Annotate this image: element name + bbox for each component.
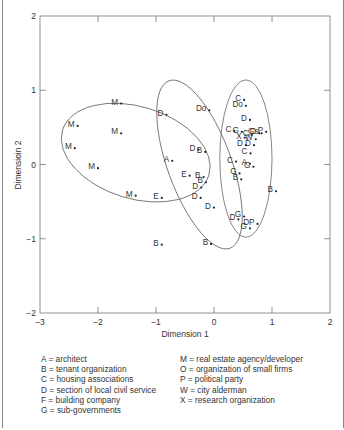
point-label: E [153,192,159,201]
data-point: E [153,192,163,201]
legend-item: W = city alderman [180,385,303,395]
data-point: P [258,126,268,135]
point-marker [135,195,137,197]
legend-item: M = real estate agency/developer [180,354,303,364]
point-label: M [111,127,118,136]
data-point: C [227,156,237,165]
data-point: B [197,176,207,185]
y-tick-label: 1 [31,85,36,95]
point-marker [205,181,207,183]
data-point: Do [196,104,211,113]
point-label: M [111,98,118,107]
point-marker [97,167,99,169]
point-label: B [197,176,203,185]
point-marker [161,197,163,199]
y-axis-label: Dimensioin 2 [13,140,23,189]
point-marker [171,160,173,162]
point-label: D [205,202,211,211]
point-label: M [88,162,95,171]
point-label: B [233,173,239,182]
x-axis-label: Dimension 1 [161,329,209,339]
data-point: D [158,109,168,118]
point-marker [252,166,254,168]
legend-left-column: A = architect B = tenant organization C … [41,354,156,415]
data-point: G [244,161,254,170]
legend-item: O = organization of small firms [180,364,303,374]
legend-item: C = housing associations [41,374,156,384]
point-marker [235,160,237,162]
point-marker [200,197,202,199]
point-marker [204,151,206,153]
point-marker [213,206,215,208]
point-label: G [235,210,241,219]
point-label: E [181,170,187,179]
point-marker [238,172,240,174]
point-marker [265,131,267,133]
point-marker [120,103,122,105]
point-marker [120,132,122,134]
point-marker [253,144,255,146]
point-marker [74,147,76,149]
y-tick-label: 2 [31,11,36,21]
point-label: B [268,185,274,194]
point-label: B [153,239,159,248]
point-label: D [158,109,164,118]
y-tick-label: −2 [26,308,36,318]
point-marker [200,186,202,188]
point-marker [240,178,242,180]
point-label: M [65,142,72,151]
point-label: B [197,146,203,155]
point-label: D [192,182,198,191]
data-point: M [65,142,76,151]
legend-item: X = research organization [180,395,303,405]
point-marker [249,152,251,154]
point-label: M [126,190,133,199]
point-label: D [192,192,198,201]
y-tick-label: 0 [31,160,36,170]
data-point: M [68,120,79,129]
point-marker [249,119,251,121]
point-label: Do [232,100,243,109]
plot-area-border [40,16,330,313]
data-points: MDMMMMMEBDoADBEBBDDDBCDoDCGCOGsPXWDDCCAG… [65,94,277,248]
data-point: D [241,114,251,123]
point-label: G [244,161,250,170]
x-tick-label: −3 [35,317,45,327]
y-tick-label: −1 [26,234,36,244]
legend-right-column: M = real estate agency/developer O = org… [180,354,303,405]
x-tick-label: 1 [270,317,275,327]
point-marker [256,223,258,225]
point-marker [208,109,210,111]
data-point: A [164,155,174,164]
point-label: C [227,156,233,165]
data-point: DP [243,218,258,227]
x-tick-label: 0 [212,317,217,327]
legend-item: B = tenant organization [41,364,156,374]
data-point: C [242,147,252,156]
point-label: C [242,147,248,156]
data-point: E [181,170,191,179]
scatter-plot: −3−2−1012−2−1012 MDMMMMMEBDoADBEBBDDDBCD… [0,0,343,350]
x-tick-label: 2 [328,317,333,327]
point-marker [243,99,245,101]
point-label: P [258,126,264,135]
point-label: Do [196,104,207,113]
data-point: B [233,173,243,182]
point-marker [189,175,191,177]
legend-item: A = architect [41,354,156,364]
data-point: B [268,185,278,194]
x-tick-label: −2 [93,317,103,327]
point-label: M [68,120,75,129]
data-point: M [88,162,99,171]
point-marker [77,125,79,127]
plot-axes: −3−2−1012−2−1012 [26,11,332,327]
data-point: Do [232,100,247,109]
point-marker [275,190,277,192]
data-point: D [205,202,215,211]
point-marker [249,227,251,229]
point-label: D [241,114,247,123]
legend-item: G = sub-governments [41,405,156,415]
data-point: B [197,146,207,155]
point-label: D [189,144,195,153]
point-marker [210,243,212,245]
